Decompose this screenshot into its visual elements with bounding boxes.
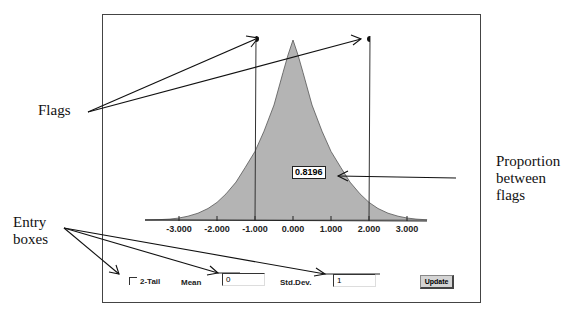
stddev-input[interactable]: 1 bbox=[333, 274, 376, 287]
callout-flags: Flags bbox=[38, 102, 71, 119]
two-tail-checkbox[interactable] bbox=[129, 277, 137, 285]
callout-proportion-line1: Proportion bbox=[496, 153, 560, 169]
mean-input[interactable]: 0 bbox=[222, 273, 265, 286]
stddev-label: Std.Dev. bbox=[280, 278, 311, 287]
callout-entry-boxes: Entry boxes bbox=[13, 214, 48, 248]
mean-label: Mean bbox=[181, 278, 201, 287]
x-tick-label: 2.000 bbox=[349, 224, 389, 234]
right-flag-marker bbox=[367, 36, 370, 42]
x-tick-label: 0.000 bbox=[273, 224, 313, 234]
x-tick-label: -2.000 bbox=[197, 224, 237, 234]
callout-entry-line1: Entry bbox=[13, 214, 46, 230]
right-flag-line bbox=[369, 36, 370, 221]
normal-curve bbox=[145, 40, 427, 220]
x-tick-label: -1.000 bbox=[235, 224, 275, 234]
callout-proportion: Proportion between flags bbox=[496, 153, 560, 204]
callout-entry-line2: boxes bbox=[13, 231, 48, 247]
x-tick-label: 3.000 bbox=[387, 224, 427, 234]
callout-proportion-line2: between bbox=[496, 170, 546, 186]
distribution-chart bbox=[0, 0, 574, 314]
x-tick-label: 1.000 bbox=[311, 224, 351, 234]
x-tick-label: -3.000 bbox=[159, 224, 199, 234]
update-button[interactable]: Update bbox=[420, 275, 454, 289]
callout-proportion-line3: flags bbox=[496, 187, 525, 203]
two-tail-label: 2-Tail bbox=[140, 277, 160, 286]
proportion-value: 0.8196 bbox=[292, 166, 326, 179]
